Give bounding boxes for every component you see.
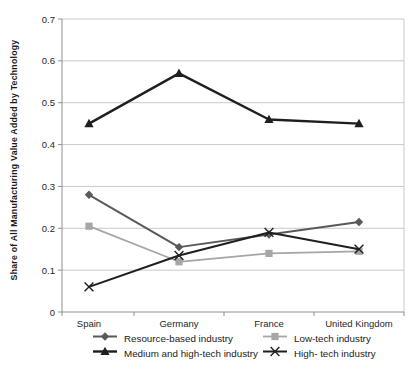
series-line-0 bbox=[89, 195, 359, 247]
y-tick-label: 0.7 bbox=[42, 14, 55, 25]
x-legend-icon bbox=[262, 346, 288, 360]
diamond-marker bbox=[85, 191, 93, 199]
diamond-marker bbox=[101, 332, 109, 340]
diamond-icon bbox=[92, 331, 118, 342]
y-tick-label: 0.6 bbox=[42, 55, 55, 66]
square-legend-icon bbox=[262, 331, 288, 345]
square-marker bbox=[271, 333, 278, 340]
legend-item-resource-based: Resource-based industry bbox=[92, 331, 262, 345]
triangle-legend-icon bbox=[92, 346, 118, 360]
square-marker bbox=[85, 223, 92, 230]
diamond-marker bbox=[175, 243, 183, 251]
legend-label: Low-tech industry bbox=[294, 332, 371, 345]
x-icon bbox=[262, 346, 288, 357]
x-category-label: Spain bbox=[77, 318, 101, 329]
legend-label: High- tech industry bbox=[294, 347, 376, 360]
y-tick-label: 0.5 bbox=[42, 97, 55, 108]
triangle-icon bbox=[92, 346, 118, 357]
series-line-2 bbox=[89, 73, 359, 123]
legend-label: Resource-based industry bbox=[124, 332, 233, 345]
legend-item-high-tech: High- tech industry bbox=[262, 346, 413, 360]
y-tick-label: 0.3 bbox=[42, 181, 55, 192]
y-tick-label: 0.2 bbox=[42, 223, 55, 234]
square-marker bbox=[175, 258, 182, 265]
y-tick-label: 0 bbox=[50, 307, 55, 318]
legend: Resource-based industry Low-tech industr… bbox=[0, 331, 413, 360]
legend-label: Medium and high-tech industry bbox=[124, 347, 258, 360]
square-marker bbox=[265, 250, 272, 257]
diamond-marker bbox=[355, 218, 363, 226]
x-marker bbox=[85, 282, 94, 291]
x-category-label: France bbox=[254, 318, 284, 329]
y-tick-label: 0.4 bbox=[42, 139, 55, 150]
plot-area: 00.10.20.30.40.50.60.7SpainGermanyFrance… bbox=[0, 0, 413, 330]
legend-item-medium-high-tech: Medium and high-tech industry bbox=[92, 346, 262, 360]
square-icon bbox=[262, 331, 288, 342]
triangle-marker bbox=[174, 69, 183, 77]
y-tick-label: 0.1 bbox=[42, 265, 55, 276]
diamond-legend-icon bbox=[92, 331, 118, 345]
x-category-label: Germany bbox=[159, 318, 198, 329]
x-category-label: United Kingdom bbox=[325, 318, 393, 329]
legend-item-low-tech: Low-tech industry bbox=[262, 331, 413, 345]
chart-figure: Share of All Manufacturing Value Added b… bbox=[0, 0, 413, 374]
